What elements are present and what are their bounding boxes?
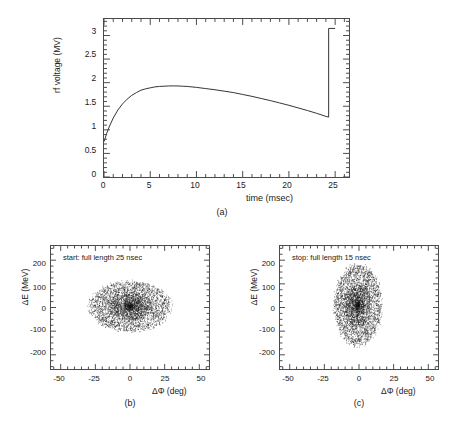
panel-c-axis-ticks bbox=[280, 246, 438, 369]
panel-b-ytick-200: 200 bbox=[12, 259, 46, 268]
panel-c-ytick-200: 200 bbox=[241, 259, 275, 268]
panel-a-y-axis-title: rf voltage (MV) bbox=[52, 5, 62, 125]
panel-c-ytick-0: 0 bbox=[241, 304, 275, 313]
panel-b-ytick-neg200: -200 bbox=[12, 348, 46, 357]
panel-b-annotation: start: full length 25 nsec bbox=[63, 253, 142, 262]
panel-a-caption: (a) bbox=[202, 207, 242, 217]
panel-c-x-axis-title: ΔΦ (deg) bbox=[381, 386, 416, 396]
panel-b-ytick-neg100: -100 bbox=[12, 325, 46, 334]
panel-b-xtick-25: 25 bbox=[152, 374, 178, 383]
panel-b-caption: (b) bbox=[110, 398, 150, 408]
panel-c-plot-frame: stop: full length 15 nsec bbox=[279, 245, 439, 370]
panel-c-xtick-25: 25 bbox=[381, 374, 407, 383]
panel-b-plot-frame: start: full length 25 nsec bbox=[50, 245, 210, 370]
panel-a-xtick-15: 15 bbox=[226, 180, 256, 190]
panel-c-xtick-neg25: -25 bbox=[310, 374, 336, 383]
panel-a-xtick-0: 0 bbox=[88, 180, 118, 190]
panel-b-ytick-0: 0 bbox=[12, 304, 46, 313]
panel-a-plot-frame bbox=[103, 18, 350, 178]
panel-a-ytick-0p5: 0.5 bbox=[56, 145, 96, 155]
panel-b-xtick-neg50: -50 bbox=[46, 374, 72, 383]
panel-b-xtick-neg25: -25 bbox=[81, 374, 107, 383]
panel-c-ytick-neg200: -200 bbox=[241, 348, 275, 357]
panel-b-xtick-0: 0 bbox=[117, 374, 143, 383]
panel-c-xtick-0: 0 bbox=[346, 374, 372, 383]
panel-b-x-axis-title: ΔΦ (deg) bbox=[152, 386, 187, 396]
panel-a-ytick-3: 3 bbox=[56, 26, 96, 36]
panel-b-axis-ticks bbox=[51, 246, 209, 369]
panel-a-x-axis-title: time (msec) bbox=[246, 193, 293, 203]
panel-a-axis-ticks bbox=[104, 19, 349, 177]
panel-b-xtick-50: 50 bbox=[188, 374, 214, 383]
panel-a-ytick-1: 1 bbox=[56, 121, 96, 131]
panel-a-ytick-2: 2 bbox=[56, 73, 96, 83]
panel-a-xtick-20: 20 bbox=[272, 180, 302, 190]
panel-a-ytick-1p5: 1.5 bbox=[56, 97, 96, 107]
panel-c-ytick-neg100: -100 bbox=[241, 325, 275, 334]
panel-c-caption: (c) bbox=[339, 398, 379, 408]
panel-a-xtick-25: 25 bbox=[318, 180, 348, 190]
panel-c-ytick-100: 100 bbox=[241, 283, 275, 292]
panel-c-xtick-neg50: -50 bbox=[275, 374, 301, 383]
panel-a-ytick-2p5: 2.5 bbox=[56, 49, 96, 59]
panel-a-ytick-0: 0 bbox=[56, 169, 96, 179]
panel-c-xtick-50: 50 bbox=[417, 374, 443, 383]
panel-a-xtick-10: 10 bbox=[180, 180, 210, 190]
panel-b-ytick-100: 100 bbox=[12, 283, 46, 292]
panel-a-rf-voltage: rf voltage (MV) 3 2.5 2 1.5 1 0.5 0 0 5 … bbox=[0, 0, 452, 228]
panel-a-xtick-5: 5 bbox=[134, 180, 164, 190]
panel-c-annotation: stop: full length 15 nsec bbox=[292, 253, 371, 262]
